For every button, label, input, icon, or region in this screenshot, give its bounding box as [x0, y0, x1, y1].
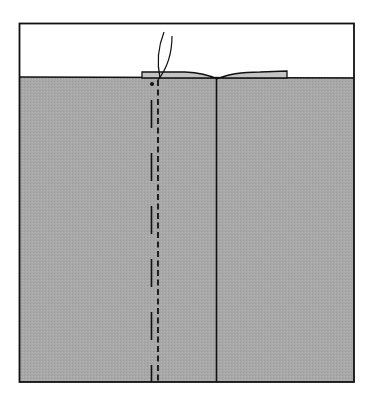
- fabric-panel: [19, 77, 354, 382]
- marker-dot: [150, 82, 154, 86]
- sewing-diagram: [0, 0, 366, 400]
- diagram-canvas: [0, 0, 366, 400]
